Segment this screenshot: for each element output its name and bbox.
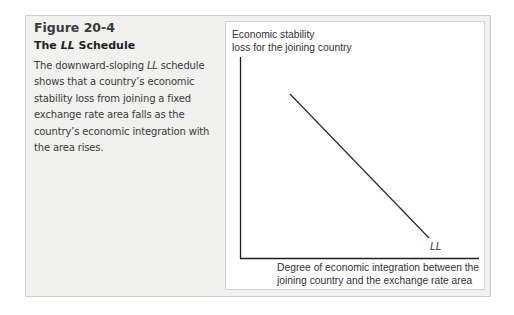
ll-curve-label: LL	[430, 240, 442, 252]
ll-schedule-line	[290, 94, 429, 238]
x-axis-label: Degree of economic integration between t…	[277, 262, 479, 287]
x-axis-label-line2: joining country and the exchange rate ar…	[277, 275, 479, 288]
x-axis-label-line1: Degree of economic integration between t…	[277, 262, 479, 275]
